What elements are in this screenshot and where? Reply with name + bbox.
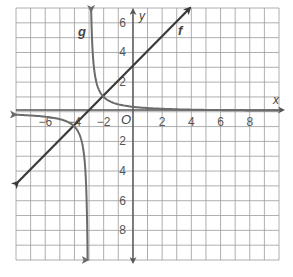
function-g-label: g [77,24,86,39]
grid-lines [16,8,279,260]
y-tick-label: 6 [119,16,126,30]
function-g-lower-branch [16,115,88,260]
x-tick-label: −2 [97,115,111,129]
y-tick-label: 4 [119,164,126,178]
x-tick-label: 2 [159,115,166,129]
y-tick-label: 8 [119,223,126,237]
x-tick-label: 6 [217,115,224,129]
y-tick-label: 6 [119,194,126,208]
y-tick-label: 4 [119,45,126,59]
y-tick-label: 2 [119,134,126,148]
x-tick-label: 4 [188,115,195,129]
x-axis-label: x [272,93,280,107]
x-tick-label: 8 [246,115,253,129]
origin-label: O [121,112,131,127]
y-axis-label: y [138,9,146,23]
function-f-label: f [178,23,184,38]
coordinate-graph: −6−4−224686422468 x y O f g [0,0,293,277]
